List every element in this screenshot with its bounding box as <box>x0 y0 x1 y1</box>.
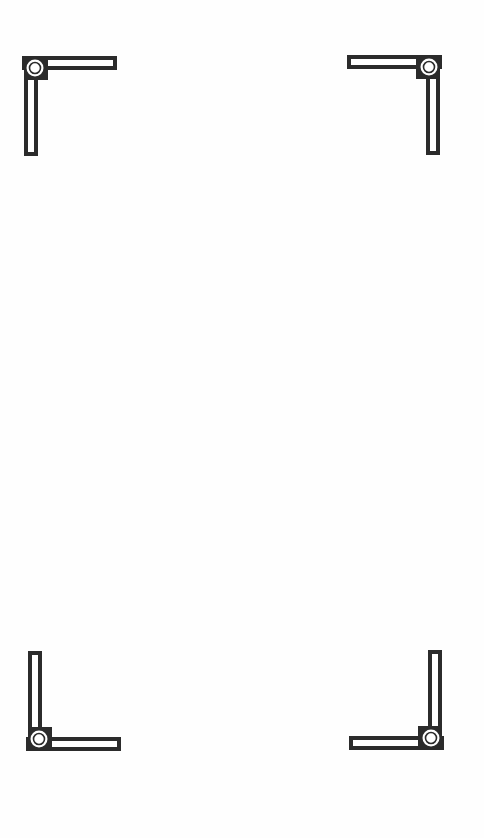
page-frame <box>0 0 484 838</box>
corner-bracket-bottom-right <box>348 649 444 751</box>
corner-bracket-icon <box>346 54 442 156</box>
corner-bracket-icon <box>22 55 118 157</box>
corner-bracket-icon <box>348 649 444 751</box>
corner-bracket-bottom-left <box>26 650 122 752</box>
corner-bracket-top-right <box>346 54 442 156</box>
corner-bracket-top-left <box>22 55 118 157</box>
corner-bracket-icon <box>26 650 122 752</box>
